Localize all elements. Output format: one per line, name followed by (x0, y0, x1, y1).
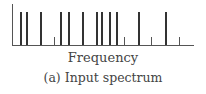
spectral-line (68, 12, 70, 45)
y-axis (12, 4, 13, 46)
spectral-line (101, 12, 103, 45)
spectral-line (96, 12, 98, 45)
spectral-line (26, 12, 28, 45)
spectral-line (54, 37, 55, 45)
spectral-line (116, 12, 118, 45)
spectral-line (124, 37, 125, 45)
spectral-line (151, 37, 152, 45)
spectral-line (165, 12, 167, 45)
spectral-line (20, 12, 22, 45)
spectral-line (82, 12, 84, 45)
spectral-line (109, 12, 111, 45)
spectral-line (60, 12, 62, 45)
x-axis-label: Frequency (0, 50, 206, 65)
spectral-line (40, 12, 42, 45)
spectral-line (138, 12, 140, 45)
figure-caption: (a) Input spectrum (0, 70, 206, 85)
spectrum-plot (0, 0, 206, 50)
x-axis (12, 45, 194, 46)
spectral-line (179, 37, 180, 45)
